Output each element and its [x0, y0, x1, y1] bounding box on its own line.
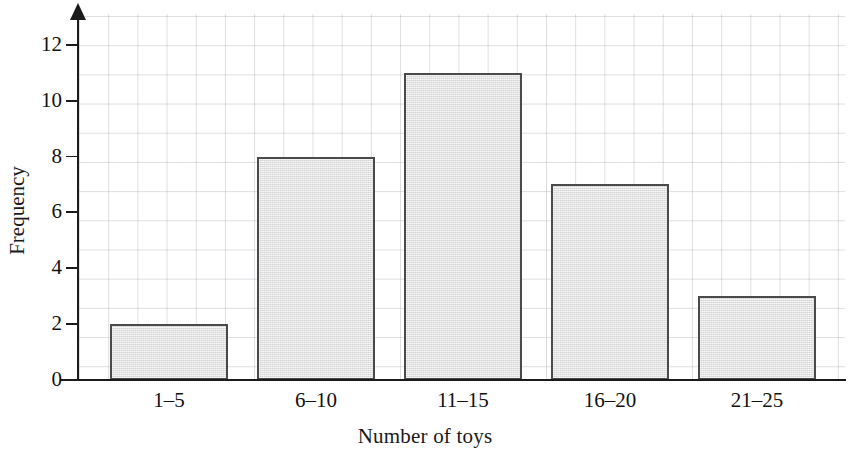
y-axis-tick: [66, 211, 78, 213]
y-axis-tick: [66, 267, 78, 269]
y-axis-tick: [66, 379, 78, 381]
bar: [551, 184, 669, 379]
bar: [404, 73, 522, 380]
chart-figure: ad 024681012 1–56–1011–1516–2021–25 Freq…: [0, 0, 850, 458]
x-axis-tick-label: 11–15: [404, 388, 522, 413]
y-axis-tick-label: 10: [26, 90, 62, 111]
y-axis-title: Frequency: [5, 131, 30, 291]
y-axis-tick-label: 12: [26, 34, 62, 55]
y-axis-arrow-icon: [70, 3, 86, 20]
bar: [698, 296, 816, 380]
y-axis-tick: [66, 44, 78, 46]
x-axis-title: Number of toys: [0, 424, 850, 449]
y-axis-tick: [66, 156, 78, 158]
y-axis-tick-label: 4: [26, 257, 62, 278]
x-axis-tick-label: 1–5: [110, 388, 228, 413]
bar: [110, 324, 228, 380]
y-axis-tick-label: 0: [26, 369, 62, 390]
x-axis-tick-label: 16–20: [551, 388, 669, 413]
x-axis-tick-label: 6–10: [257, 388, 375, 413]
x-axis-tick-label: 21–25: [698, 388, 816, 413]
y-axis-tick-label: 2: [26, 313, 62, 334]
y-axis-tick-label: 6: [26, 201, 62, 222]
y-axis-tick-label: 8: [26, 146, 62, 167]
y-axis-line: [77, 16, 79, 381]
x-axis-line: [60, 379, 846, 381]
y-axis-tick: [66, 323, 78, 325]
y-axis-tick: [66, 100, 78, 102]
bar: [257, 157, 375, 380]
